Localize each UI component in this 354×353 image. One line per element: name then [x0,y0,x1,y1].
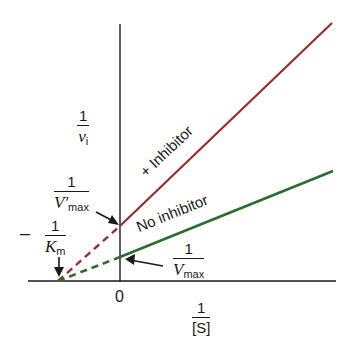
km-minus-sign: – [20,224,30,242]
arrow-vpmax-icon [96,212,119,225]
km-label: 1 Km [45,218,66,257]
y-axis-label: 1 vi [77,108,89,147]
km-sub: m [56,245,65,257]
km-var: K [45,237,56,256]
vpmax-sub: max [68,201,89,213]
vpmax-num: 1 [65,174,77,191]
km-num: 1 [49,218,61,235]
vmax-sub: max [183,268,204,280]
x-axis-label: 1 [S] [192,300,210,335]
y-axis-label-sub: i [86,135,88,147]
inhibitor-line [120,23,332,226]
vmax-var: V [173,260,183,279]
y-axis-label-var: v [78,127,86,146]
vpmax-label: 1 V′max [54,174,89,213]
arrow-vmax-icon [125,254,163,266]
vmax-num: 1 [182,241,194,258]
x-axis-label-den: [S] [192,318,210,335]
inhibitor-line-dashed [58,226,120,281]
y-axis-label-num: 1 [77,108,89,125]
no-inhibitor-line-dashed [58,257,120,281]
x-zero-tick: 0 [115,289,124,305]
vmax-label: 1 Vmax [173,241,204,280]
x-axis-label-num: 1 [195,300,207,317]
arrow-km-icon [54,257,64,277]
vpmax-var: V′ [54,193,68,212]
